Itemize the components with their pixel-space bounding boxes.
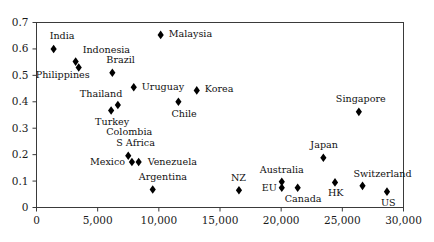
x-axis-tick-label: 30,000 (364, 215, 434, 226)
data-point-label: Korea (205, 84, 234, 94)
y-axis-tick-label: 0.1 (0, 176, 29, 187)
data-point-label: Argentina (139, 172, 187, 182)
y-axis-tick-label: 0.3 (0, 123, 29, 134)
data-point-label: NZ (231, 173, 246, 183)
y-axis-tick-label: 0 (0, 202, 29, 213)
data-point-marker (129, 158, 135, 167)
data-point-marker (125, 151, 131, 160)
data-point-label: India (50, 31, 75, 41)
data-point-label: Indonesia (83, 45, 130, 55)
data-point-marker (236, 186, 242, 195)
data-point-label: Colombia (106, 127, 152, 137)
data-point-label: Mexico (90, 157, 125, 167)
data-point-marker (109, 68, 115, 77)
data-point-marker (356, 108, 362, 117)
data-point-label: Canada (285, 194, 322, 204)
data-point-label: S Africa (116, 138, 155, 148)
scatter-chart: 00.10.20.30.40.50.60.705,00010,00015,000… (0, 0, 434, 242)
data-point-marker (158, 31, 164, 40)
data-point-marker (359, 182, 365, 191)
data-point-marker (332, 178, 338, 187)
data-point-label: US (381, 198, 396, 208)
data-point-marker (194, 86, 200, 95)
data-point-label: Japan (310, 140, 338, 150)
data-point-label: HK (328, 188, 344, 198)
data-point-marker (136, 158, 142, 167)
data-point-label: Singapore (336, 94, 386, 104)
y-axis-tick-label: 0.2 (0, 149, 29, 160)
data-point-marker (51, 45, 57, 54)
data-point-label: Turkey (95, 117, 129, 127)
data-point-label: Venezuela (148, 157, 197, 167)
data-point-label: Chile (171, 109, 196, 119)
data-points (51, 31, 391, 196)
data-point-label: Switzerland (354, 169, 412, 179)
data-point-label: Uruguay (142, 82, 184, 92)
data-point-marker (320, 154, 326, 163)
y-axis-tick-label: 0.6 (0, 43, 29, 54)
y-axis-tick-label: 0.7 (0, 17, 29, 28)
data-point-label: Brazil (106, 55, 135, 65)
y-axis-tick-label: 0.4 (0, 96, 29, 107)
data-point-marker (279, 183, 285, 192)
data-point-marker (108, 106, 114, 115)
data-point-label: EU (262, 183, 277, 193)
data-point-label: Thailand (80, 89, 122, 99)
y-axis-tick-label: 0.5 (0, 70, 29, 81)
data-point-label: Philippines (36, 70, 90, 80)
data-point-marker (131, 83, 137, 92)
data-point-marker (175, 97, 181, 106)
data-point-marker (115, 101, 121, 110)
data-point-marker (295, 183, 301, 192)
data-point-marker (384, 187, 390, 196)
data-point-label: Malaysia (169, 29, 212, 39)
data-point-label: Australia (260, 165, 304, 175)
data-point-marker (150, 185, 156, 194)
